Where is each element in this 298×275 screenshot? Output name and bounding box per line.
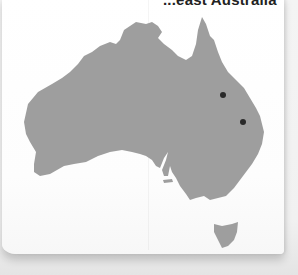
kangaroo-island <box>163 179 173 183</box>
tasmania <box>214 222 238 248</box>
location-marker-1[interactable] <box>220 92 226 98</box>
location-marker-2[interactable] <box>240 119 246 125</box>
mainland-australia <box>24 17 264 200</box>
australia-map <box>0 0 298 275</box>
